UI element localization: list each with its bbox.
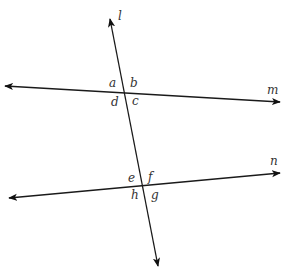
angle-label-f: f [147,170,155,184]
angle-label-g: g [151,188,159,202]
line-label-n: n [270,154,278,168]
line-label-l: l [118,9,122,23]
angle-label-d: d [111,95,119,109]
transversal-diagram: l m n a b c d e f g h [0,0,286,274]
line-label-m: m [267,83,278,97]
angle-label-h: h [131,188,139,202]
angle-label-c: c [132,94,139,108]
transversal-line-l [110,19,158,266]
angle-label-e: e [128,171,135,185]
angle-label-b: b [130,76,138,90]
angle-label-a: a [109,76,116,90]
line-m [5,86,280,102]
